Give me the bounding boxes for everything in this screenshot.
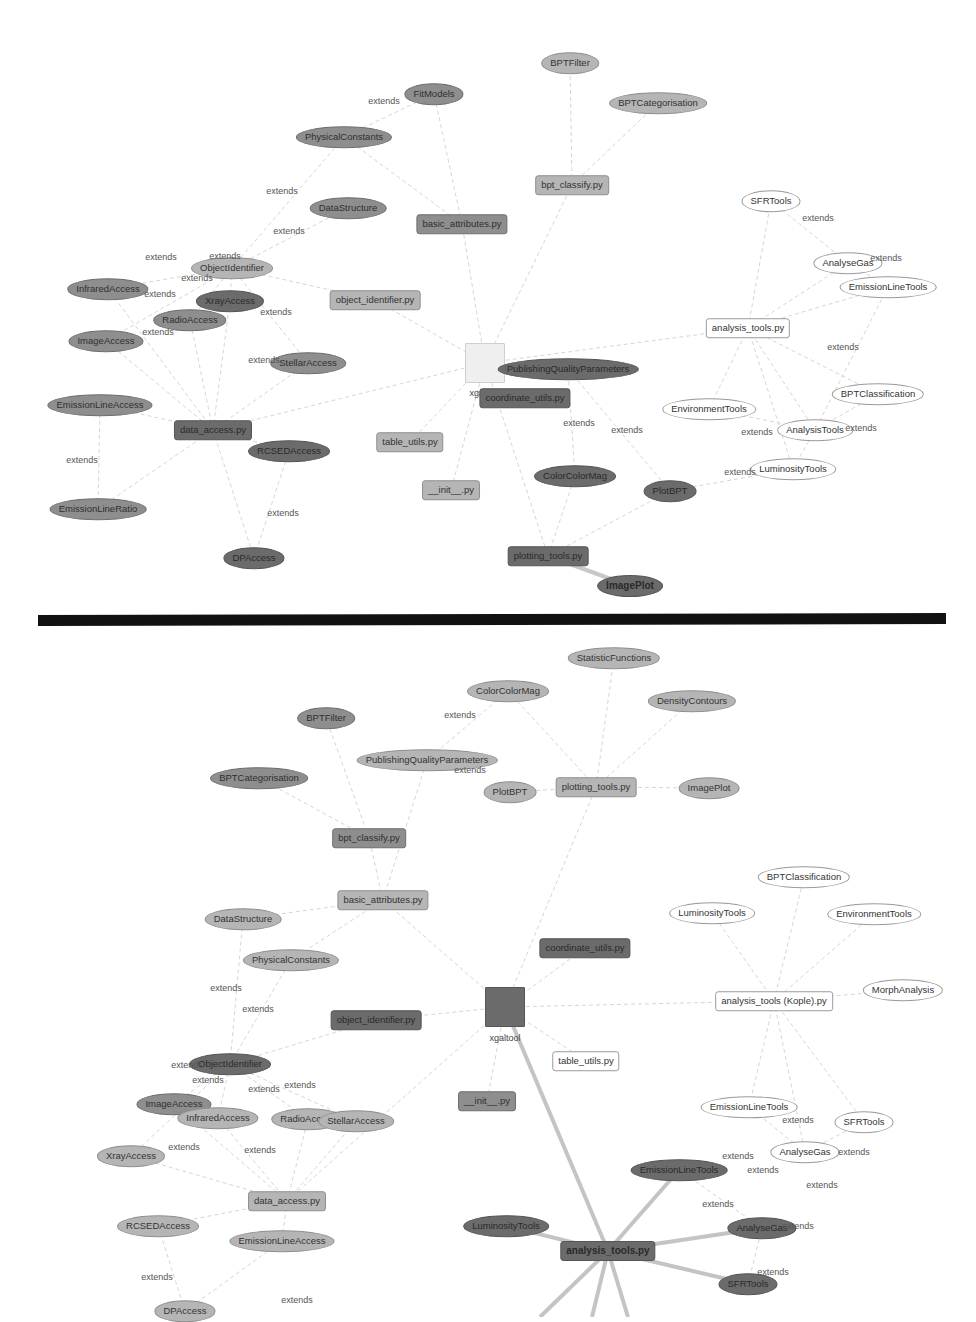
class-node-stellar-access[interactable]: StellarAccess: [318, 1110, 394, 1132]
module-node-basic-attributes-py[interactable]: basic_attributes.py: [337, 890, 428, 910]
module-node-plotting-tools-py[interactable]: plotting_tools.py: [556, 777, 637, 797]
graph-edge: [748, 201, 771, 328]
class-node-color-color-mag[interactable]: ColorColorMag: [534, 465, 616, 487]
class-node-fit-models[interactable]: FitModels: [404, 83, 463, 105]
class-node-infrared-access[interactable]: InfraredAccess: [177, 1107, 258, 1129]
class-node-rcsedaccess[interactable]: RCSEDAccess: [117, 1215, 199, 1237]
class-node-morph-analysis[interactable]: MorphAnalysis: [863, 979, 943, 1001]
class-node-emission-line-access[interactable]: EmissionLineAccess: [47, 394, 152, 416]
edge-label-extends: extends: [210, 983, 242, 993]
module-node-bpt-classify-py[interactable]: bpt_classify.py: [332, 828, 406, 848]
class-node-bptfilter[interactable]: BPTFilter: [541, 52, 599, 74]
class-node-luminosity-tools[interactable]: LuminosityTools: [669, 902, 755, 924]
class-node-bptfilter[interactable]: BPTFilter: [297, 707, 355, 729]
module-node-object-identifier-py[interactable]: object_identifier.py: [331, 1010, 422, 1030]
class-node-analysis-tools[interactable]: AnalysisTools: [777, 419, 853, 441]
class-node-plot-bpt[interactable]: PlotBPT: [484, 781, 537, 803]
graph-edge: [98, 405, 100, 509]
class-node-emission-line-access[interactable]: EmissionLineAccess: [229, 1230, 334, 1252]
class-node-environment-tools[interactable]: EnvironmentTools: [662, 398, 756, 420]
edge-label-extends: extends: [747, 1165, 779, 1175]
module-node-data-access-py[interactable]: data_access.py: [174, 420, 252, 440]
edge-label-extends: extends: [845, 423, 877, 433]
edge-label-extends: extends: [66, 455, 98, 465]
xgaltool-root-label-bottom: xgaltool: [489, 1033, 520, 1043]
module-node-init-py[interactable]: __init__.py: [422, 480, 480, 500]
module-node-plotting-tools-py[interactable]: plotting_tools.py: [508, 546, 589, 566]
xgaltool-root-node-bottom[interactable]: [485, 987, 525, 1027]
edge-label-extends: extends: [722, 1151, 754, 1161]
graph-edge: [508, 691, 596, 787]
class-node-luminosity-tools[interactable]: LuminosityTools: [750, 458, 836, 480]
class-node-sfrtools[interactable]: SFRTools: [741, 190, 800, 212]
edge-label-extends: extends: [248, 355, 280, 365]
module-node-object-identifier-py[interactable]: object_identifier.py: [330, 290, 421, 310]
class-node-plot-bpt[interactable]: PlotBPT: [644, 480, 697, 502]
graph-edge: [190, 320, 213, 430]
module-node-table-utils-py[interactable]: table_utils.py: [552, 1051, 619, 1071]
module-node-coordinate-utils-py[interactable]: coordinate_utils.py: [539, 938, 630, 958]
module-node-analysis-tools-py[interactable]: analysis_tools.py: [706, 318, 790, 338]
class-node-bptcategorisation[interactable]: BPTCategorisation: [609, 92, 707, 114]
module-node-analysis-tools-kople-py[interactable]: analysis_tools (Kople).py: [715, 991, 833, 1011]
class-node-bptclassification[interactable]: BPTClassification: [832, 383, 924, 405]
edge-label-extends: extends: [145, 252, 177, 262]
class-node-publishing-quality-parameters[interactable]: PublishingQualityParameters: [498, 358, 639, 380]
class-node-environment-tools[interactable]: EnvironmentTools: [827, 903, 921, 925]
class-node-rcsedaccess[interactable]: RCSEDAccess: [248, 440, 330, 462]
graph-edge: [709, 328, 748, 409]
class-node-luminosity-tools[interactable]: LuminosityTools: [463, 1215, 549, 1237]
graph-edge: [548, 476, 575, 556]
class-node-image-plot[interactable]: ImagePlot: [679, 777, 740, 799]
class-node-bptcategorisation[interactable]: BPTCategorisation: [210, 767, 308, 789]
module-node-analysis-tools-py[interactable]: analysis_tools.py: [560, 1241, 655, 1261]
class-node-emission-line-ratio[interactable]: EmissionLineRatio: [50, 498, 147, 520]
class-node-physical-constants[interactable]: PhysicalConstants: [296, 126, 392, 148]
class-node-density-contours[interactable]: DensityContours: [648, 690, 736, 712]
class-node-emission-line-tools[interactable]: EmissionLineTools: [631, 1159, 728, 1181]
class-node-physical-constants[interactable]: PhysicalConstants: [243, 949, 339, 971]
class-node-statistic-functions[interactable]: StatisticFunctions: [568, 647, 660, 669]
class-node-color-color-mag[interactable]: ColorColorMag: [467, 680, 549, 702]
edge-label-extends: extends: [838, 1147, 870, 1157]
module-node-coordinate-utils-py[interactable]: coordinate_utils.py: [479, 388, 570, 408]
class-node-data-structure[interactable]: DataStructure: [310, 197, 387, 219]
class-node-data-structure[interactable]: DataStructure: [205, 908, 282, 930]
class-node-dpaccess[interactable]: DPAccess: [154, 1300, 215, 1322]
module-node-table-utils-py[interactable]: table_utils.py: [376, 432, 443, 452]
graph-edge-highlighted: [608, 1170, 679, 1251]
edge-label-extends: extends: [209, 251, 241, 261]
class-node-bptclassification[interactable]: BPTClassification: [758, 866, 850, 888]
xgaltool-root-node-top[interactable]: [465, 343, 505, 383]
module-node-basic-attributes-py[interactable]: basic_attributes.py: [416, 214, 507, 234]
graph-edge: [158, 1226, 185, 1311]
graph-edge: [570, 63, 572, 185]
class-node-image-access[interactable]: ImageAccess: [68, 330, 143, 352]
edge-label-extends: extends: [368, 96, 400, 106]
class-node-xray-access[interactable]: XrayAccess: [97, 1145, 165, 1167]
class-node-image-plot[interactable]: ImagePlot: [597, 575, 663, 597]
class-node-dpaccess[interactable]: DPAccess: [223, 547, 284, 569]
graph-edge: [218, 1118, 287, 1201]
module-node-data-access-py[interactable]: data_access.py: [248, 1191, 326, 1211]
graph-edge: [815, 287, 888, 430]
edge-label-extends: extends: [168, 1142, 200, 1152]
class-node-sfrtools[interactable]: SFRTools: [834, 1111, 893, 1133]
edge-label-extends: extends: [244, 1145, 276, 1155]
class-node-xray-access[interactable]: XrayAccess: [196, 290, 264, 312]
edge-label-extends: extends: [827, 342, 859, 352]
edge-label-extends: extends: [802, 213, 834, 223]
edge-label-extends: extends: [142, 327, 174, 337]
edge-label-extends: extends: [563, 418, 595, 428]
edge-label-extends: extends: [181, 273, 213, 283]
class-node-stellar-access[interactable]: StellarAccess: [270, 352, 346, 374]
class-node-infrared-access[interactable]: InfraredAccess: [67, 278, 148, 300]
graph-edge: [485, 185, 572, 363]
class-node-analyse-gas[interactable]: AnalyseGas: [770, 1141, 839, 1163]
edge-label-extends: extends: [266, 186, 298, 196]
class-node-emission-line-tools[interactable]: EmissionLineTools: [840, 276, 937, 298]
module-node-bpt-classify-py[interactable]: bpt_classify.py: [535, 175, 609, 195]
module-node-init-py[interactable]: __init__.py: [458, 1091, 516, 1111]
edge-label-extends: extends: [273, 226, 305, 236]
